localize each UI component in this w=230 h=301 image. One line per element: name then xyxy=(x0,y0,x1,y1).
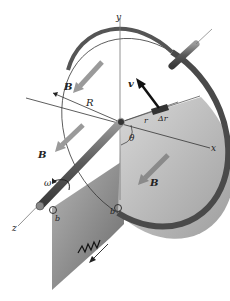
b-left-label: b xyxy=(55,214,60,223)
B-left-label: B xyxy=(37,149,46,160)
omega-label: ω xyxy=(44,178,52,188)
disk-center-hub xyxy=(118,119,124,125)
y-axis-label: y xyxy=(115,12,122,22)
velocity-label: v xyxy=(128,78,134,89)
velocity-arrow-shaft xyxy=(141,84,159,108)
field-arrow-upper-left-shaft xyxy=(80,62,102,86)
radius-label: R xyxy=(85,97,94,108)
B-upper-left-label: B xyxy=(63,81,72,92)
b-right-label: b xyxy=(110,207,115,216)
disk-shaded-sector xyxy=(118,97,230,239)
field-arrow-left-shaft xyxy=(62,125,83,145)
B-lower-right-label: B xyxy=(149,177,158,188)
z-axis-label: z xyxy=(11,223,17,233)
delta-r-label: Δr xyxy=(157,114,169,123)
faraday-disk-diagram: y x z R r Δr v θ ω b b B B B xyxy=(0,0,230,301)
axle-end xyxy=(36,202,44,210)
omega-arrowhead xyxy=(52,178,57,184)
theta-label: θ xyxy=(129,133,135,143)
x-axis-label: x xyxy=(211,143,216,153)
axle-tip-line xyxy=(196,29,212,44)
